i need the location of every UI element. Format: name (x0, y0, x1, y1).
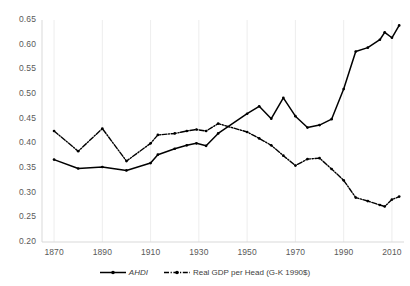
legend-label: AHDI (129, 268, 148, 277)
x-axis-tick-label: 1990 (324, 247, 364, 257)
data-point-marker (398, 195, 401, 198)
data-point-marker (149, 142, 152, 145)
data-point-marker (383, 31, 386, 34)
data-point-marker (101, 166, 104, 169)
x-axis-tick-label: 1890 (82, 247, 122, 257)
series-line (54, 25, 399, 170)
data-point-marker (173, 132, 176, 135)
legend-item-ahdi[interactable]: AHDI (100, 268, 148, 277)
data-point-marker (205, 144, 208, 147)
legend-line-swatch (164, 268, 190, 277)
data-point-marker (366, 200, 369, 203)
y-axis-tick-label: 0.20 (2, 236, 36, 246)
data-point-marker (330, 118, 333, 121)
data-point-marker (270, 117, 273, 120)
data-point-marker (354, 196, 357, 199)
data-point-marker (185, 144, 188, 147)
x-axis-tick-label: 1970 (275, 247, 315, 257)
x-axis-tick-label: 1910 (131, 247, 171, 257)
y-axis-tick-label: 0.35 (2, 162, 36, 172)
legend-item-real-gdp-per-head[interactable]: Real GDP per Head (G-K 1990$) (164, 268, 310, 277)
data-point-marker (53, 158, 56, 161)
y-axis-tick-label: 0.45 (2, 113, 36, 123)
data-point-marker (77, 150, 80, 153)
data-point-marker (205, 130, 208, 133)
y-axis-tick-label: 0.60 (2, 39, 36, 49)
data-point-marker (398, 24, 401, 27)
data-point-marker (195, 142, 198, 145)
x-axis-tick-label: 1950 (227, 247, 267, 257)
data-point-marker (383, 205, 386, 208)
y-axis-tick-label: 0.65 (2, 14, 36, 24)
data-point-marker (342, 179, 345, 182)
chart-container: 0.200.250.300.350.400.450.500.550.600.65… (0, 0, 410, 286)
x-axis-tick-label: 1870 (34, 247, 74, 257)
data-point-marker (391, 198, 394, 201)
data-point-marker (185, 130, 188, 133)
x-axis-tick-label: 1930 (179, 247, 219, 257)
legend-line-swatch (100, 268, 126, 277)
data-point-marker (366, 46, 369, 49)
data-point-marker (354, 50, 357, 53)
data-point-marker (391, 36, 394, 39)
data-point-marker (246, 112, 249, 115)
data-point-marker (258, 137, 261, 140)
data-point-marker (258, 105, 261, 108)
data-point-marker (294, 115, 297, 118)
chart-series-ahdi (53, 24, 401, 172)
data-point-marker (195, 128, 198, 131)
data-point-marker (173, 147, 176, 150)
y-axis-tick-label: 0.50 (2, 88, 36, 98)
data-point-marker (53, 130, 56, 133)
data-point-marker (282, 97, 285, 100)
data-point-marker (125, 160, 128, 163)
series-line (54, 124, 399, 207)
chart-series-real-gdp-per-head (53, 122, 401, 208)
data-point-marker (125, 169, 128, 172)
data-point-marker (379, 38, 382, 41)
y-axis-tick-label: 0.40 (2, 137, 36, 147)
y-axis-tick-label: 0.30 (2, 187, 36, 197)
x-axis-tick-label: 2010 (372, 247, 410, 257)
data-point-marker (282, 154, 285, 157)
y-axis-tick-label: 0.25 (2, 211, 36, 221)
data-point-marker (156, 153, 159, 156)
data-point-marker (379, 204, 382, 207)
legend-label: Real GDP per Head (G-K 1990$) (193, 268, 310, 277)
data-point-marker (156, 134, 159, 137)
data-point-marker (330, 168, 333, 171)
data-point-marker (217, 122, 220, 125)
data-point-marker (306, 158, 309, 161)
data-point-marker (342, 88, 345, 91)
data-point-marker (217, 132, 220, 135)
data-point-marker (318, 124, 321, 127)
data-point-marker (306, 126, 309, 129)
data-point-marker (77, 167, 80, 170)
data-point-marker (294, 164, 297, 167)
data-point-marker (318, 157, 321, 160)
chart-legend: AHDIReal GDP per Head (G-K 1990$) (0, 268, 410, 277)
data-point-marker (101, 127, 104, 130)
data-point-marker (149, 162, 152, 165)
chart-plot-area (0, 0, 410, 286)
data-point-marker (270, 144, 273, 147)
data-point-marker (246, 131, 249, 134)
y-axis-tick-label: 0.55 (2, 63, 36, 73)
